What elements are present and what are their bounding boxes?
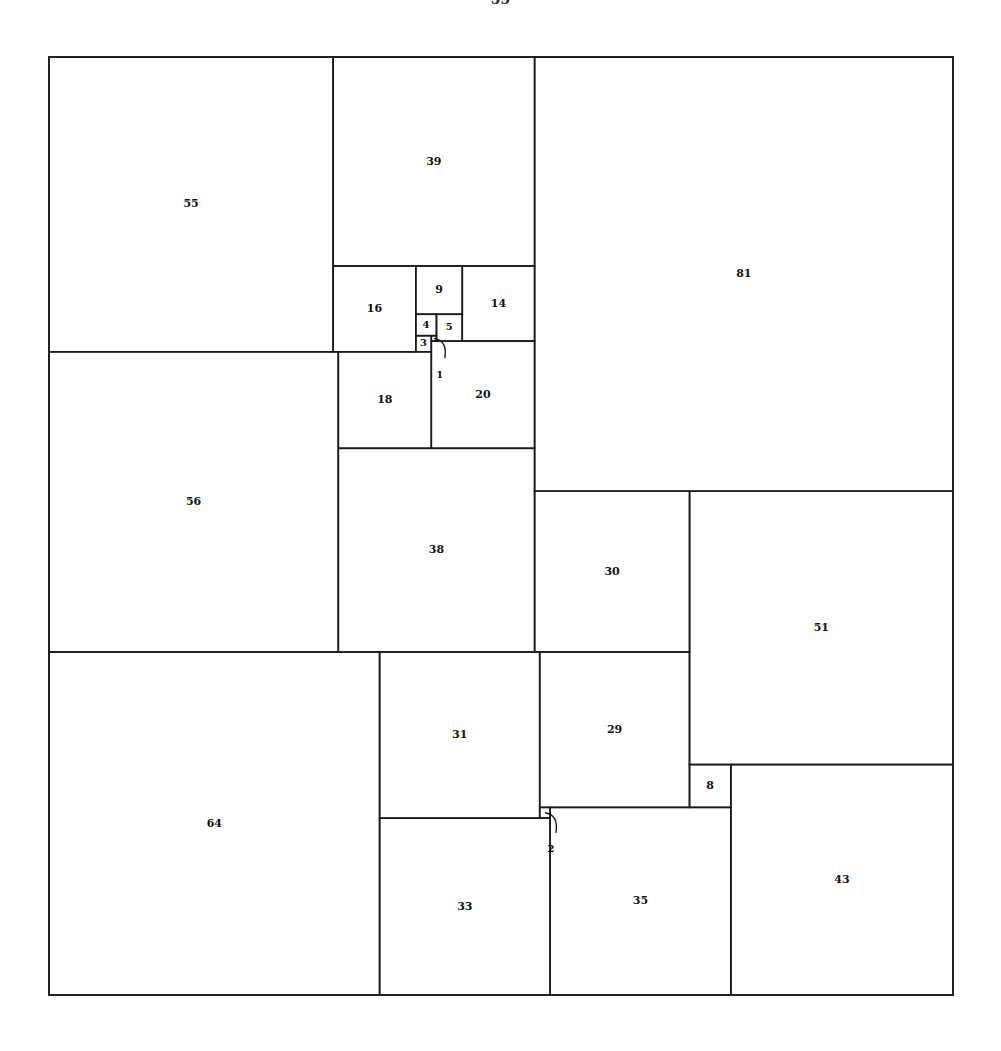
square-label-29: 29 <box>607 723 622 736</box>
labels-layer: 5539811691445312018563830516431298433335… <box>183 155 849 913</box>
square-label-81: 81 <box>736 267 751 280</box>
square-label-55: 55 <box>183 197 198 210</box>
squared-square-diagram: 5539811691445312018563830516431298433335… <box>0 0 1001 1051</box>
square-label-33: 33 <box>457 900 472 913</box>
square-label-38: 38 <box>429 543 445 556</box>
square-label-51: 51 <box>814 621 829 634</box>
square-label-4: 4 <box>423 319 430 330</box>
square-label-9: 9 <box>435 283 443 296</box>
square-label-43: 43 <box>834 873 849 886</box>
square-label-35: 35 <box>633 894 648 907</box>
square-label-30: 30 <box>604 565 620 578</box>
square-label-16: 16 <box>367 302 383 315</box>
square-2 <box>540 807 550 818</box>
square-label-56: 56 <box>186 495 202 508</box>
square-label-64: 64 <box>207 817 223 830</box>
square-label-3: 3 <box>420 337 427 348</box>
square-label-1: 1 <box>436 369 443 380</box>
square-label-31: 31 <box>452 728 467 741</box>
square-label-2: 2 <box>547 843 554 854</box>
square-label-20: 20 <box>475 388 491 401</box>
square-label-8: 8 <box>706 779 714 792</box>
square-label-39: 39 <box>426 155 441 168</box>
square-label-18: 18 <box>377 393 393 406</box>
square-label-5: 5 <box>446 321 453 332</box>
square-label-14: 14 <box>491 297 507 310</box>
